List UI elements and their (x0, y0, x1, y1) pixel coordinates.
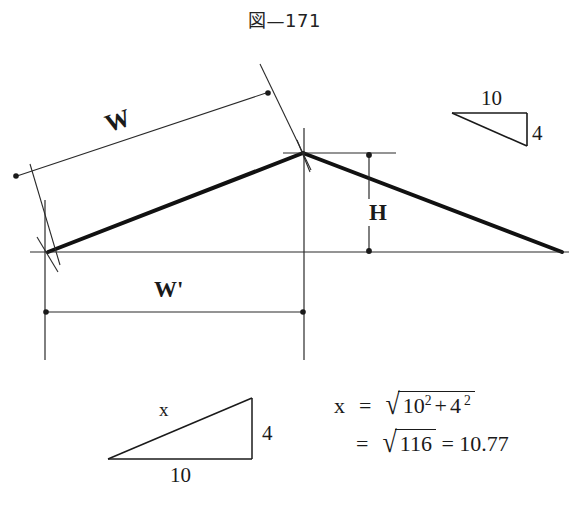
plus-operator: + (435, 393, 447, 418)
tick-left-eave (37, 237, 58, 272)
label-hyp-triangle-hypotenuse: x (159, 400, 169, 419)
pitch-triangle-hypotenuse (452, 113, 527, 146)
equation-equals-3: = (441, 431, 453, 456)
radical-body-1: 102+42 (398, 391, 475, 419)
label-hyp-triangle-base: 10 (170, 465, 191, 486)
equation-lhs: x (334, 393, 345, 418)
w-dimension-group (13, 64, 311, 265)
base-10: 10 (403, 393, 425, 418)
roof-outline-group (48, 153, 562, 252)
w-extension-right (260, 64, 311, 170)
wprime-dimension-endpoint-right (300, 309, 306, 315)
h-dimension-endpoint-bottom (366, 248, 372, 254)
exponent-2-b: 2 (464, 393, 471, 408)
label-hyp-triangle-rise: 4 (262, 423, 273, 444)
wprime-dimension-endpoint-left (43, 309, 49, 315)
radical-sign-icon-2: √ (382, 426, 396, 461)
equation-block: x = √102+42 = √116 = 10.77 (334, 390, 509, 466)
radical-2: √116 (382, 428, 435, 458)
equation-line-1: x = √102+42 (334, 390, 509, 428)
label-rise-h: H (366, 199, 390, 226)
equation-equals-2: = (356, 431, 368, 456)
h-dimension-endpoint-top (366, 152, 372, 158)
w-dimension-endpoint-right (265, 90, 271, 96)
figure-container: 図—171 (0, 0, 569, 517)
radical-1: √102+42 (385, 390, 474, 420)
w-dimension-line (14, 92, 269, 177)
roof-slope-left (48, 153, 303, 252)
equation-equals-1: = (359, 393, 371, 418)
equation-result: 10.77 (459, 431, 509, 456)
wprime-dimension-group (43, 128, 306, 360)
label-pitch-triangle-rise: 4 (532, 123, 543, 144)
roof-slope-right (303, 153, 562, 252)
w-dimension-endpoint-left (13, 173, 19, 179)
base-4: 4 (450, 393, 461, 418)
label-pitch-triangle-base: 10 (481, 88, 502, 109)
pitch-ratio-triangle-shape (452, 113, 527, 146)
equation-line-2: = √116 = 10.77 (334, 428, 509, 466)
hypotenuse-triangle-shape (108, 398, 252, 459)
radical-body-2: 116 (395, 429, 436, 457)
label-half-span-wprime: W' (154, 278, 183, 301)
hyp-triangle-hypotenuse (108, 398, 252, 459)
radical-sign-icon: √ (385, 388, 399, 423)
exponent-2-a: 2 (425, 393, 432, 408)
